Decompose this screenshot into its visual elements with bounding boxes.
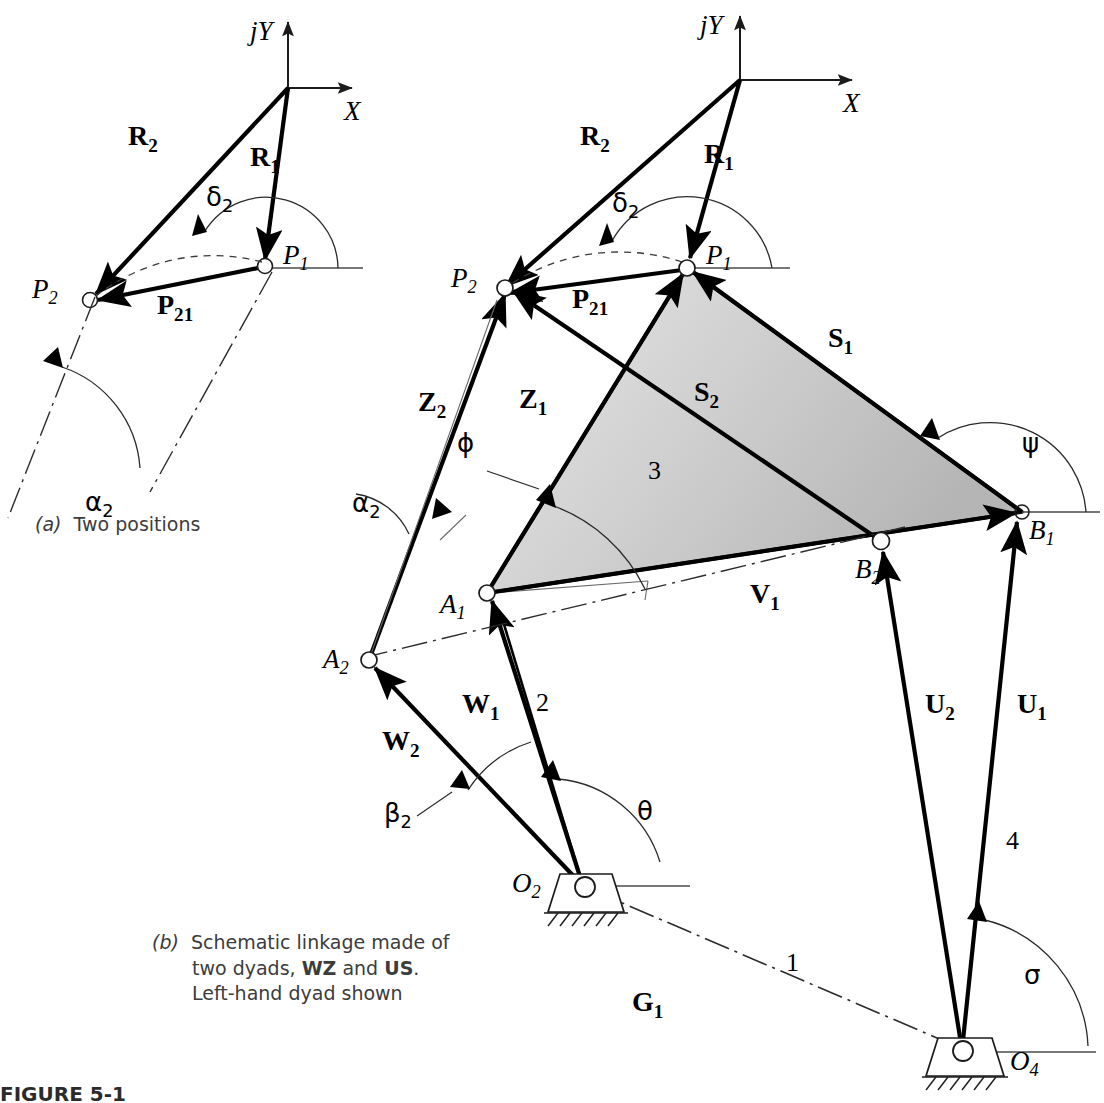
vector-label-R2-b: R2: [580, 122, 610, 155]
point-label-P2-a: P2: [32, 276, 58, 308]
node-P1-b: [679, 260, 695, 276]
axis-label-X-a: X: [344, 98, 361, 125]
node-P2-a: [83, 293, 98, 308]
axis-label-jY-a: jY: [250, 18, 273, 45]
ground-pivot-O4: [922, 1038, 1008, 1090]
vector-label-R1-a: R1: [250, 143, 280, 176]
angle-label-phi-b: ϕ: [457, 430, 474, 456]
point-label-O4-b: O4: [1010, 1048, 1039, 1080]
vector-G1-b: [592, 890, 958, 1047]
angle-leader-phi-b: [487, 471, 539, 489]
angle-arc-alpha2-a: [62, 367, 140, 468]
angle-label-psi-b: ψ: [1022, 430, 1039, 456]
node-B2-b: [873, 533, 890, 550]
angle-arrow-alpha2-a: [43, 347, 63, 368]
body-line-P2-a: [8, 297, 95, 518]
diagram-b-geometry: [356, 16, 1100, 1090]
vector-U2-b: [883, 552, 962, 1050]
angle-arrow-delta2-b: [599, 223, 614, 246]
vector-label-Z1-b: Z1: [519, 385, 547, 418]
axis-label-jY-b: jY: [700, 12, 723, 39]
vector-label-G1-b: G1: [632, 988, 663, 1021]
caption-a: (a) Two positions: [35, 512, 200, 538]
link-number-1-b: 1: [786, 950, 799, 976]
angle-label-beta2-b: β2: [384, 800, 412, 832]
node-A1-b: [479, 585, 495, 601]
vector-label-W2-b: W2: [382, 727, 420, 760]
point-label-O2-b: O2: [512, 870, 541, 902]
vector-label-P21-b: P21: [572, 285, 608, 318]
angle-arrow-alpha2-b: [432, 498, 452, 519]
angle-arrow-beta2-b: [450, 770, 470, 789]
ref-line-alpha2-b: [440, 515, 466, 540]
angle-label-delta2-a: δ2: [206, 184, 233, 216]
point-label-P1-a: P1: [283, 242, 309, 274]
vector-label-Z2-b: Z2: [418, 388, 446, 421]
ground-pivot-O2: [544, 874, 628, 926]
angle-arrow-psi-b: [920, 418, 940, 440]
node-P2-b: [497, 280, 513, 296]
link-number-4-b: 4: [1006, 828, 1019, 854]
axis-label-X-b: X: [843, 90, 860, 117]
vector-label-U2-b: U2: [925, 690, 955, 723]
vector-R2-b: [506, 80, 740, 286]
angle-label-sigma-b: σ: [1024, 962, 1040, 988]
point-label-B1-b: B1: [1029, 517, 1055, 549]
vector-label-R1-b: R1: [704, 140, 734, 173]
vector-U1-b: [962, 522, 1017, 1050]
point-label-P1-b: P1: [706, 242, 732, 274]
point-label-A1-b: A1: [440, 591, 466, 623]
angle-arrow-sigma-b: [967, 901, 987, 922]
angle-arrow-delta2-a: [192, 214, 207, 236]
vector-label-V1-b: V1: [750, 580, 780, 613]
vector-Z2-b: [369, 294, 505, 660]
vector-label-S2-b: S2: [694, 378, 719, 411]
vector-label-S1-b: S1: [828, 324, 853, 357]
ref-tick-A1-b: [645, 581, 648, 600]
vector-label-R2-a: R2: [128, 122, 158, 155]
vector-label-W1-b: W1: [462, 690, 500, 723]
point-label-P2-b: P2: [451, 265, 477, 297]
angle-leader-beta2-b: [417, 792, 452, 816]
vector-label-P21-a: P21: [157, 291, 193, 324]
angle-label-delta2-b: δ2: [612, 190, 639, 222]
angle-label-alpha2-b: α2: [352, 490, 380, 522]
figure-number: FIGURE 5-1: [0, 1082, 126, 1103]
node-A2-b: [361, 652, 377, 668]
link-number-3-b: 3: [648, 458, 661, 484]
swing-arc-a: [96, 256, 262, 296]
diagram-a-geometry: [8, 22, 363, 518]
caption-b: (b) Schematic linkage made of two dyads,…: [152, 930, 450, 1007]
point-label-B2-b: B2: [855, 556, 881, 588]
angle-arc-beta2-b: [468, 742, 531, 790]
link-number-2-b: 2: [536, 690, 549, 716]
angle-label-theta-b: θ: [637, 798, 653, 824]
point-label-A2-b: A2: [323, 646, 349, 678]
figure-canvas: jY X R2 R1 P21 P1 P2 δ2 α2 jY X R2 R1 P2…: [0, 0, 1104, 1103]
aux-line-A2-P2-b: [370, 300, 497, 657]
vector-label-U1-b: U1: [1017, 690, 1047, 723]
